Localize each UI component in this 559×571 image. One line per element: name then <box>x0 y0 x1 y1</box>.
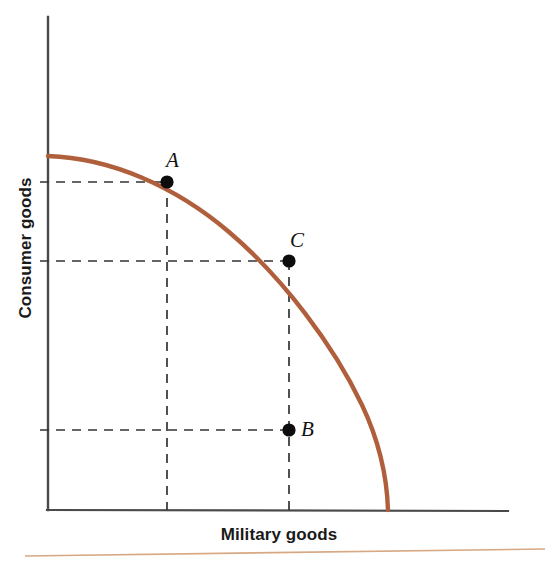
data-point-c[interactable] <box>282 254 295 267</box>
point-label-b: B <box>301 417 314 442</box>
data-point-b[interactable] <box>282 423 295 436</box>
bottom-rule <box>25 549 545 556</box>
ppf-chart-svg <box>0 0 559 571</box>
y-axis-label: Consumer goods <box>16 177 36 318</box>
ppf-curve <box>48 156 388 510</box>
x-axis-line <box>47 510 508 511</box>
data-point-a[interactable] <box>160 175 173 188</box>
x-axis-label: Military goods <box>221 525 338 545</box>
point-label-a: A <box>166 148 179 173</box>
ppf-figure: A C B Consumer goods Military goods <box>0 0 559 571</box>
point-label-c: C <box>290 228 304 253</box>
